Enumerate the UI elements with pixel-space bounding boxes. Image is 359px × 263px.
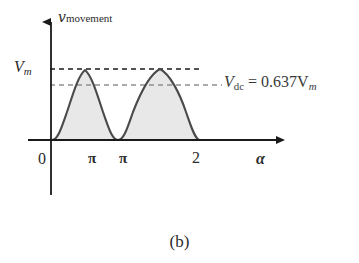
vdc-symbol: V: [224, 73, 234, 90]
x-tick-2: 2: [192, 149, 200, 167]
x-axis-label-alpha: α: [256, 150, 265, 168]
x-tick-pi-first: π: [88, 150, 96, 167]
vm-axis-label: Vm: [14, 59, 32, 75]
vdc-value: 0.637V: [261, 73, 309, 90]
vm-axis-label-subscript: m: [24, 65, 32, 77]
vdc-value-subscript: m: [309, 80, 317, 92]
vdc-equals: =: [248, 73, 257, 90]
vdc-subscript: dc: [234, 80, 244, 92]
vdc-annotation: Vdc = 0.637Vm: [224, 74, 317, 90]
waveform-plot: [0, 0, 359, 263]
figure-container: vmovement Vm Vdc = 0.637Vm 0 π π 2 α (b): [0, 0, 359, 263]
y-axis-label-symbol: v: [58, 9, 66, 25]
x-tick-0: 0: [38, 150, 46, 168]
y-axis-label: vmovement: [58, 10, 112, 25]
figure-caption: (b): [0, 232, 359, 252]
y-axis-label-subscript: movement: [66, 12, 112, 24]
vm-axis-label-symbol: V: [14, 58, 24, 75]
x-tick-pi-second: π: [119, 150, 127, 167]
